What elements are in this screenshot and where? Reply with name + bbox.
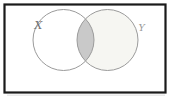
frame-shadow [7,94,165,96]
venn-diagram-figure: X Y [0,0,172,101]
set-label-x: X [34,19,44,32]
venn-diagram-canvas: X Y [0,0,172,101]
